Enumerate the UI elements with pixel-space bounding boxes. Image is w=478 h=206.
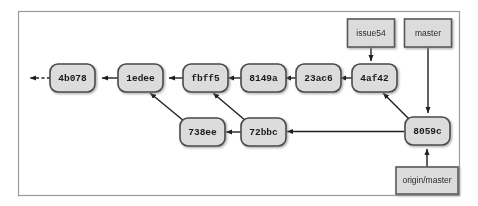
commit-node-4af42[interactable]: 4af42 [352,64,397,92]
commit-node-738ee[interactable]: 738ee [180,118,225,146]
commit-node-72bbc[interactable]: 72bbc [241,118,286,146]
commit-node-1edee[interactable]: 1edee [118,64,163,92]
diagram-canvas: 4b078 1edee fbff5 8149a 23ac6 4af42 738e… [0,0,478,206]
commit-label: 23ac6 [304,73,333,84]
commit-node-4b078[interactable]: 4b078 [50,64,95,92]
commit-label: 1edee [126,73,155,84]
commit-label: 8149a [249,73,278,84]
commit-node-8149a[interactable]: 8149a [241,64,286,92]
commit-label: fbff5 [191,73,220,84]
commit-label: 8059c [413,126,442,137]
branch-ref-label: issue54 [356,28,386,38]
branch-ref-label: master [415,28,441,38]
commit-node-8059c[interactable]: 8059c [405,117,450,145]
git-history-diagram: 4b078 1edee fbff5 8149a 23ac6 4af42 738e… [0,0,478,206]
commit-label: 4b078 [58,73,87,84]
branch-ref-issue54[interactable]: issue54 [348,19,395,47]
commit-node-23ac6[interactable]: 23ac6 [296,64,341,92]
branch-ref-master[interactable]: master [405,19,452,47]
commit-node-fbff5[interactable]: fbff5 [183,64,228,92]
branch-ref-label: origin/master [402,175,451,185]
commit-label: 72bbc [249,127,278,138]
branch-ref-origin-master[interactable]: origin/master [396,167,458,194]
commit-label: 738ee [188,127,217,138]
commit-label: 4af42 [360,73,389,84]
